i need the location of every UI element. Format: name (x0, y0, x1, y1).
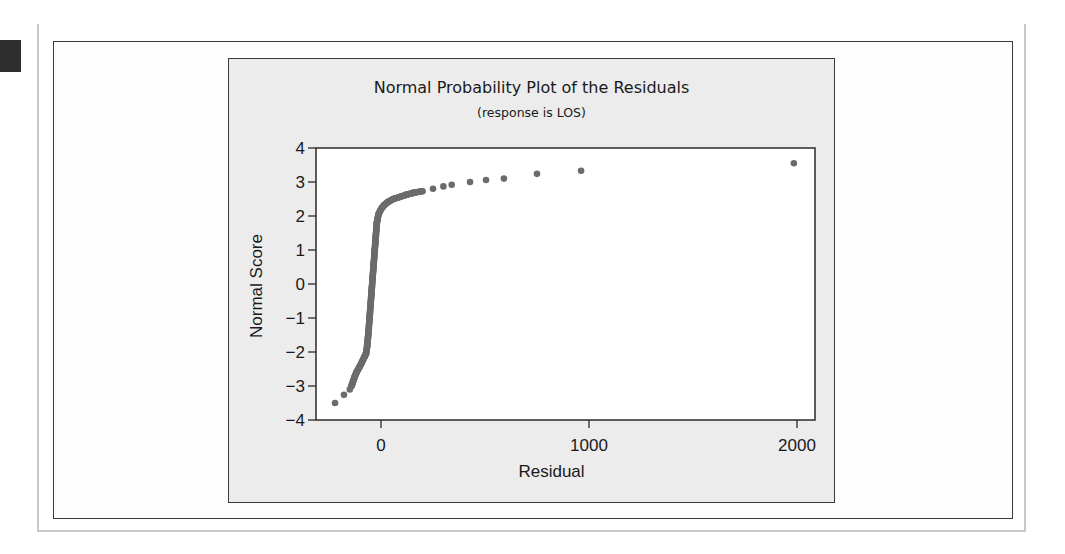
data-point (791, 160, 798, 167)
y-tick-label: −2 (286, 343, 305, 362)
data-point (403, 192, 410, 199)
data-point (368, 288, 375, 295)
data-point (369, 274, 376, 281)
x-tick-label: 1000 (570, 436, 608, 455)
y-tick-label: 1 (296, 241, 305, 260)
y-tick-label: 0 (296, 275, 305, 294)
data-point (440, 183, 447, 190)
data-point (430, 186, 437, 193)
data-point (501, 175, 508, 182)
data-point (448, 181, 455, 188)
data-point (410, 190, 417, 197)
data-point (390, 196, 397, 203)
data-point (467, 179, 474, 186)
data-point (578, 167, 585, 174)
data-point (373, 233, 380, 240)
x-axis-label: Residual (518, 462, 584, 481)
data-point (370, 260, 377, 267)
data-point (341, 392, 348, 399)
data-point (367, 301, 374, 308)
x-tick-label: 0 (376, 436, 385, 455)
data-point (366, 315, 373, 322)
y-tick-label: 4 (296, 139, 305, 158)
data-point (396, 194, 403, 201)
y-tick-label: 2 (296, 207, 305, 226)
y-tick-label: −1 (286, 309, 305, 328)
chart-plot: 43210−1−2−3−4010002000ResidualNormal Sco… (0, 0, 1065, 554)
plot-area (316, 148, 815, 420)
data-point (371, 247, 378, 254)
data-point (483, 177, 490, 184)
x-tick-label: 2000 (778, 436, 816, 455)
y-tick-label: 3 (296, 173, 305, 192)
data-point (419, 188, 426, 195)
y-tick-label: −4 (286, 411, 305, 430)
y-axis-label: Normal Score (247, 234, 266, 338)
data-point (364, 342, 371, 349)
data-point (365, 328, 372, 335)
data-point (534, 171, 541, 178)
y-tick-label: −3 (286, 377, 305, 396)
data-point (374, 220, 381, 227)
data-point (332, 400, 339, 407)
data-point (363, 350, 370, 357)
